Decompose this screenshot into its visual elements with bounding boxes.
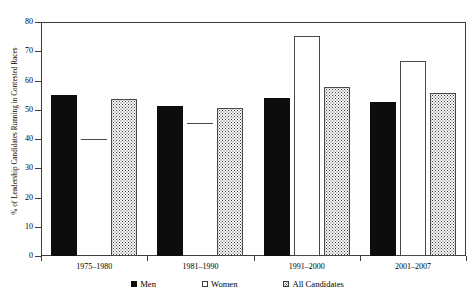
y-axis-tick-label: 80 [0,18,33,26]
legend-item: All Candidates [283,279,343,289]
x-axis-tick [147,256,148,261]
y-axis-tick-label: 60 [0,77,33,85]
bar-group [254,22,360,256]
legend-label: Women [211,279,238,289]
bar [370,102,396,256]
y-axis-tick-label: 40 [0,135,33,143]
x-axis-tick [41,256,42,261]
bar [157,106,183,256]
legend-swatch-women-icon [202,281,208,287]
legend-label: All Candidates [292,279,343,289]
bar [400,61,426,256]
legend-swatch-men-icon [131,281,137,287]
bar-chart: % of Leadership Candidates Running in Co… [0,0,475,301]
bar [111,99,137,256]
x-axis-tick [360,256,361,261]
chart-legend: MenWomenAll Candidates [0,279,475,289]
bar-group [360,22,466,256]
bar [324,87,350,256]
bar [217,108,243,256]
bar [187,123,213,124]
y-axis-tick-label: 30 [0,164,33,172]
legend-item: Men [131,279,156,289]
x-axis-tick-label: 1975–1980 [41,262,147,272]
bar-group [147,22,253,256]
y-axis-tick-label: 20 [0,194,33,202]
bar [51,95,77,256]
bar [430,93,456,256]
bar-group [41,22,147,256]
bar [264,98,290,256]
x-axis-tick-label: 1991–2000 [254,262,360,272]
bar [81,139,107,140]
y-axis-title-text: % of Leadership Candidates Running in Co… [11,47,19,214]
x-axis-tick [466,256,467,261]
x-axis-tick-label: 1981–1990 [147,262,253,272]
bar [294,36,320,256]
x-axis-tick [254,256,255,261]
x-axis-tick-label: 2001–2007 [360,262,466,272]
y-axis-tick-label: 50 [0,106,33,114]
y-axis-tick-label: 0 [0,252,33,260]
y-axis-tick-label: 10 [0,223,33,231]
legend-item: Women [202,279,238,289]
legend-label: Men [140,279,156,289]
legend-swatch-all-icon [283,281,289,287]
bars-layer [41,22,466,256]
y-axis-tick-label: 70 [0,47,33,55]
